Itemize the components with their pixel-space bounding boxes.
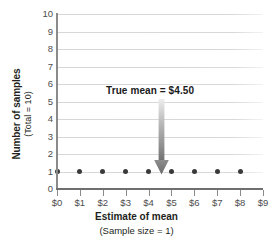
y-axis-tick-label: 10 (35, 9, 53, 19)
x-axis-tick-label: $0 (45, 198, 69, 208)
x-axis-tick-label: $9 (251, 198, 273, 208)
y-axis-tick-label: 5 (35, 97, 53, 107)
x-axis-tick-label: $3 (114, 198, 138, 208)
data-point (77, 169, 82, 174)
y-axis-tick-label: 6 (35, 79, 53, 89)
data-point (100, 169, 105, 174)
annotation-true-mean-label: True mean = $4.50 (106, 85, 194, 96)
x-axis-tick-label: $8 (228, 198, 252, 208)
y-axis-tick-label: 3 (35, 132, 53, 142)
x-axis-tick-label: $2 (91, 198, 115, 208)
x-axis-tick-label: $7 (205, 198, 229, 208)
x-axis-tick (263, 190, 264, 196)
data-point (146, 169, 151, 174)
x-axis-tick (80, 190, 81, 196)
y-axis-line (56, 13, 58, 190)
y-axis-tick-labels: 109876543210 (33, 0, 53, 200)
x-axis-title: Estimate of mean (Sample size = 1) (0, 211, 273, 236)
y-axis-tick-label: 1 (35, 167, 53, 177)
gridline (57, 67, 263, 68)
x-axis-tick (171, 190, 172, 196)
x-axis-tick (240, 190, 241, 196)
y-axis-title-main: Number of samples (11, 68, 22, 159)
data-point (123, 169, 128, 174)
gridline (57, 14, 263, 15)
x-axis-tick-label: $4 (137, 198, 161, 208)
x-axis-tick (103, 190, 104, 196)
data-point (192, 169, 197, 174)
gridline (57, 32, 263, 33)
y-axis-tick-label: 7 (35, 62, 53, 72)
y-axis-tick-label: 8 (35, 44, 53, 54)
x-axis-tick-label: $5 (159, 198, 183, 208)
x-axis-title-sub: (Sample size = 1) (0, 225, 273, 236)
data-point (215, 169, 220, 174)
x-axis-tick (149, 190, 150, 196)
annotation-down-arrow-icon (153, 99, 170, 175)
x-axis-line (56, 188, 263, 190)
x-axis-tick-label: $1 (68, 198, 92, 208)
y-axis-tick-label: 9 (35, 27, 53, 37)
y-axis-tick-label: 4 (35, 114, 53, 124)
x-axis-tick (57, 190, 58, 196)
y-axis-tick-label: 2 (35, 149, 53, 159)
chart-container: Number of samples (Total = 10) 109876543… (0, 0, 273, 247)
y-axis-tick-label: 0 (35, 184, 53, 194)
x-axis-tick-label: $6 (182, 198, 206, 208)
y-axis-title-sub: (Total = 10) (23, 91, 33, 136)
x-axis-title-main: Estimate of mean (0, 211, 273, 223)
x-axis-tick (194, 190, 195, 196)
gridline (57, 49, 263, 50)
data-point (238, 169, 243, 174)
x-axis-tick (126, 190, 127, 196)
x-axis-tick (217, 190, 218, 196)
